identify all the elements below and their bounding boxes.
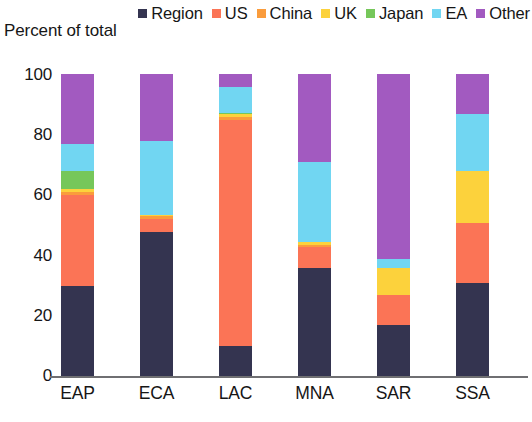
bar-sar[interactable] (377, 75, 410, 376)
x-axis-tick-labels: EAPECALACMNASARSSA (58, 380, 532, 420)
x-tick-label-eca: ECA (139, 382, 174, 404)
y-tick-label: 60 (33, 186, 52, 204)
legend-item-label: Other (489, 5, 530, 22)
legend-item-us[interactable]: US (212, 5, 248, 22)
legend-item-uk[interactable]: UK (321, 5, 357, 22)
legend-item-label: Japan (379, 5, 423, 22)
bar-segment-region[interactable] (377, 324, 410, 376)
bar-segment-us[interactable] (456, 222, 489, 283)
bar-segment-other[interactable] (377, 74, 410, 258)
legend-swatch-icon (138, 9, 147, 18)
bar-segment-other[interactable] (456, 74, 489, 114)
legend-swatch-icon (257, 9, 266, 18)
legend-swatch-icon (212, 9, 221, 18)
y-tick-label: 100 (24, 66, 52, 84)
bar-segment-other[interactable] (219, 74, 252, 87)
bar-segment-us[interactable] (377, 294, 410, 325)
bar-segment-region[interactable] (219, 345, 252, 376)
y-axis-tick-labels: 100806040200 (0, 75, 52, 376)
bar-segment-region[interactable] (456, 282, 489, 376)
bar-lac[interactable] (219, 75, 252, 376)
bars-container (58, 75, 532, 376)
bar-segment-us[interactable] (61, 195, 94, 286)
bar-eca[interactable] (140, 75, 173, 376)
y-tick-label: 40 (33, 247, 52, 265)
y-tick-label: 80 (33, 126, 52, 144)
bar-ssa[interactable] (456, 75, 489, 376)
bar-mna[interactable] (298, 75, 331, 376)
bar-segment-japan[interactable] (61, 171, 94, 190)
bar-segment-ea[interactable] (377, 258, 410, 268)
x-tick-label-lac: LAC (219, 382, 252, 404)
bar-segment-ea[interactable] (61, 144, 94, 172)
bar-segment-us[interactable] (140, 219, 173, 232)
bar-segment-us[interactable] (298, 246, 331, 268)
x-tick-label-eap: EAP (60, 382, 94, 404)
legend-item-label: UK (334, 5, 357, 22)
legend-item-label: US (225, 5, 248, 22)
bar-segment-other[interactable] (140, 74, 173, 141)
legend-item-china[interactable]: China (257, 5, 313, 22)
bar-segment-other[interactable] (298, 74, 331, 162)
bar-segment-uk[interactable] (456, 171, 489, 223)
bar-segment-other[interactable] (61, 74, 94, 144)
legend-item-label: EA (445, 5, 467, 22)
bar-segment-ea[interactable] (219, 86, 252, 112)
legend-item-other[interactable]: Other (476, 5, 530, 22)
plot-area (58, 75, 532, 376)
bar-segment-us[interactable] (219, 120, 252, 346)
legend-item-ea[interactable]: EA (432, 5, 467, 22)
legend-item-region[interactable]: Region (138, 5, 203, 22)
legend-item-japan[interactable]: Japan (366, 5, 423, 22)
legend-swatch-icon (476, 9, 485, 18)
bar-segment-region[interactable] (61, 285, 94, 376)
legend-swatch-icon (321, 9, 330, 18)
legend-swatch-icon (432, 9, 441, 18)
x-tick-label-ssa: SSA (455, 382, 489, 404)
bar-segment-uk[interactable] (377, 267, 410, 295)
stacked-bar-chart: RegionUSChinaUKJapanEAOther Percent of t… (0, 0, 532, 422)
x-axis-line (50, 376, 528, 378)
y-axis-title: Percent of total (4, 21, 117, 41)
x-tick-label-mna: MNA (295, 382, 333, 404)
bar-segment-region[interactable] (298, 267, 331, 376)
legend-item-label: China (270, 5, 313, 22)
y-tick-label: 20 (33, 307, 52, 325)
legend-swatch-icon (366, 9, 375, 18)
bar-segment-ea[interactable] (456, 114, 489, 172)
bar-segment-ea[interactable] (298, 162, 331, 242)
bar-segment-region[interactable] (140, 231, 173, 376)
x-tick-label-sar: SAR (376, 382, 411, 404)
bar-segment-ea[interactable] (140, 141, 173, 215)
bar-eap[interactable] (61, 75, 94, 376)
legend-item-label: Region (151, 5, 203, 22)
